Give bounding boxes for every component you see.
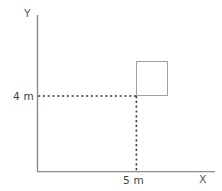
x-axis-label: X xyxy=(199,174,207,185)
coordinate-diagram: Y X 4 m 5 m xyxy=(0,0,222,191)
y-axis-label: Y xyxy=(24,8,31,19)
x-axis-tick-label-5m: 5 m xyxy=(123,175,144,186)
y-axis-tick-label-4m: 4 m xyxy=(13,91,34,102)
object-square xyxy=(136,61,168,96)
